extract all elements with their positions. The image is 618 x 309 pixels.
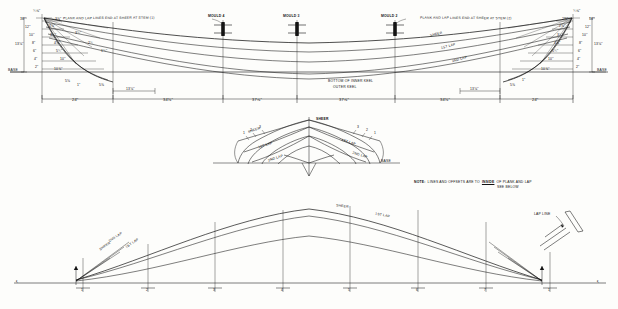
halfbreadth-stem-marks [74,266,544,285]
body-section-right-2 [309,127,370,164]
offset-left-16: 3¾" [75,32,82,35]
offset-right-4: 8" [579,42,583,45]
halfbreadth-fan-right [489,242,542,281]
mould-4-label: MOULD 4 [208,15,225,18]
profile-small-dim-left-2: 5⅜ [99,84,104,87]
offset-left-5: 6" [33,50,37,53]
offset-left-19: 3⅜" [55,18,62,21]
offset-left-6: 4" [34,58,38,61]
offset-left-14: 5⅛ [65,80,70,83]
profile-station-verticals [42,14,573,99]
offset-left-12: 10" [60,58,66,61]
halfbreadth-lap1-curve [76,216,542,280]
profile-secondary-dims [113,88,500,94]
offset-right-14: 2⅜" [562,18,569,21]
lap-detail-leader [556,216,564,226]
mould-markers [221,22,397,36]
offset-right-11: 5¾" [552,50,559,53]
offset-left-3: 10" [29,34,35,37]
profile-small-dim-right-3: 1" [522,79,526,82]
offset-left-11: 5¾" [56,50,63,53]
note-line1-b: OF PLANK AND LAP [496,181,531,184]
offset-left-9: 3½" [50,34,57,37]
sheer-curve [44,18,572,43]
mould-2-label: MOULD 2 [381,15,398,18]
inner-keel-curve [48,34,568,74]
lap-detail-plank-c [540,228,566,246]
offset-right-2: 12" [585,26,591,29]
profile-top-note-left: PLANK AND LAP LINES END AT SHEER AT STEM… [63,17,155,21]
profile-dim-2: 34⅛" [163,98,173,102]
profile-small-dim-right-2: 5⅜ [510,84,515,87]
offset-right-8: 2⅜" [559,25,566,28]
note-line2: SEE BELOW [414,186,532,189]
lap-line-label: LAP LINE [534,213,550,216]
lap-detail-plank-a [565,212,578,232]
profile-base-label-left: BASE [8,69,18,72]
profile-dim-3: 37⅝" [252,98,262,102]
body-lap2-right [309,136,366,162]
profile-dim-4: 37⅝" [339,98,349,102]
offset-right-6: 4" [577,58,581,61]
profile-base-label-right: BASE [597,69,607,72]
halfbreadth-centerline-glyph-right: ℄ [597,280,599,283]
body-plan-view [213,117,400,176]
profile-view [10,14,608,103]
note-line1-a: LINES AND OFFSETS ARE TO [428,181,480,184]
profile-height-dim-label-right: 13⅛" [594,43,603,46]
offset-left-1: 14" [20,18,26,21]
lap-detail-cap2 [578,231,583,232]
offset-right-9: 3½" [557,34,564,37]
note-prefix: NOTE: [414,181,426,184]
note-line1-emph: INSIDE [482,181,495,184]
offset-right-0: ¾⅝" [573,10,580,13]
profile-height-dim-label: 13⅛" [15,43,24,46]
offset-left-8: 2⅜" [49,25,56,28]
offset-right-5: 6" [578,50,582,53]
halfbreadth-station-8: 1 [548,289,550,292]
halfbreadth-station-7: 7 [484,289,486,292]
body-station-num-r1: 1 [374,132,376,135]
profile-dim-6: 24" [532,98,538,102]
body-sheer-label-center: SHEER [316,118,329,121]
halfbreadth-station-1: 1 [81,289,83,292]
offset-left-0: ¾⅝" [33,10,40,13]
outer-keel-label: OUTER KEEL [333,86,356,89]
body-station-num-l1: 1 [243,132,245,135]
lap-detail-cap [565,211,570,212]
halfbreadth-station-4: 4 [281,289,283,292]
body-section-left-5 [284,155,309,163]
body-station-num-l3: 3 [259,126,261,129]
offset-left-4: 8" [32,42,36,45]
body-section-right-5 [309,155,334,163]
offset-left-17: 2¾ [88,42,93,45]
halfbreadth-station-6: 6 [416,289,418,292]
offset-left-2: 12" [25,26,31,29]
lines-plan-vector [0,0,618,309]
halfbreadth-lap2-curve [76,236,542,281]
profile-dim-5: 34⅛" [440,98,450,102]
body-base-label: BASE [381,160,391,163]
profile-small-dim-left-1: 13⅛" [126,88,135,91]
lap-detail-inner [545,224,563,237]
offset-right-12: 10" [548,58,554,61]
halfbreadth-station-2: 2 [146,289,148,292]
mould-3-label: MOULD 3 [283,15,300,18]
lap-line-detail [540,211,583,250]
body-station-num-r2: 2 [366,129,368,132]
second-lap-curve [46,27,570,62]
lap-detail-plank-b [570,211,583,231]
outer-keel-curve [49,38,567,79]
profile-top-note-right: PLANK AND LAP LINES END AT SHEER AT STEM… [420,17,512,21]
offset-right-3: 10" [582,34,588,37]
mould-cross-bars [214,25,404,33]
first-lap-curve [45,22,571,52]
halfbreadth-station-5: 5 [348,289,350,292]
halfbreadth-station-3: 3 [213,289,215,292]
body-station-num-r3: 3 [357,126,359,129]
profile-dim-1: 24" [72,98,78,102]
offset-left-13: 10⅜" [54,68,63,71]
offset-left-10: 4⅛" [54,42,61,45]
halfbreadth-stations [83,206,550,292]
offset-right-7: 2" [576,66,580,69]
